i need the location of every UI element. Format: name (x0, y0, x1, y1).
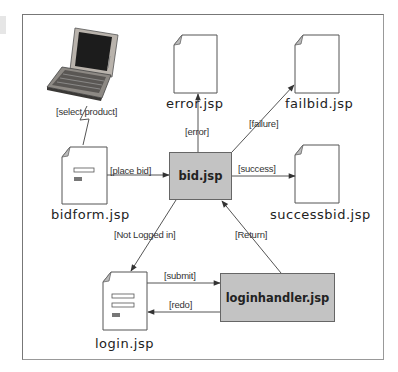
redo-label: [redo] (169, 299, 192, 310)
error-label: error.jsp (166, 96, 224, 111)
document-icon-successbid (295, 145, 339, 203)
laptop-icon (47, 28, 118, 101)
bidform-label: bidform.jsp (51, 207, 130, 222)
bid-node: bid.jsp (169, 152, 232, 200)
document-icon-error (174, 35, 217, 93)
document-icon-failbid (295, 35, 339, 93)
error-edge-label: [error] (185, 126, 209, 137)
not-logged-in-label: [Not Logged in] (114, 229, 175, 240)
loginhandler-node: loginhandler.jsp (220, 273, 335, 322)
loginhandler-node-label: loginhandler.jsp (226, 291, 330, 305)
document-icon-login (103, 272, 147, 330)
failure-label: [failure] (249, 118, 278, 129)
failbid-label: failbid.jsp (285, 96, 353, 111)
select-product-label: [select product] (56, 106, 117, 117)
bid-node-label: bid.jsp (179, 169, 223, 183)
successbid-label: successbid.jsp (270, 207, 371, 222)
return-label: [Return] (235, 229, 267, 240)
document-icon-bidform (62, 147, 107, 204)
success-label: [success] (238, 163, 276, 174)
submit-label: [submit] (164, 270, 196, 281)
login-label: login.jsp (95, 336, 154, 351)
place-bid-label: [place bid] (110, 165, 151, 176)
